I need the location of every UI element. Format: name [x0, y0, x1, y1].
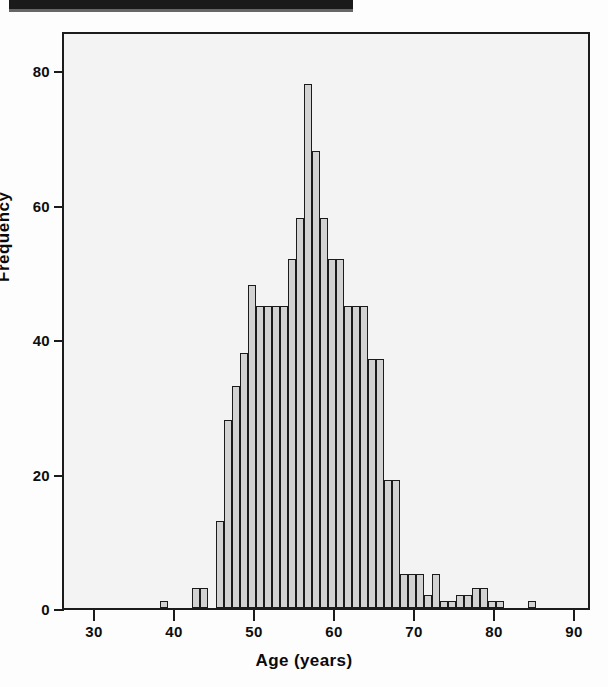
y-axis-tick-label: 60 — [4, 198, 50, 215]
x-axis-tick-label: 70 — [394, 623, 434, 640]
x-axis-tick — [253, 610, 255, 621]
histogram-bar — [488, 601, 496, 608]
histogram-bar — [528, 601, 536, 608]
x-axis-tick — [573, 610, 575, 621]
histogram-bar — [192, 588, 200, 608]
y-axis-tick-label: 40 — [4, 332, 50, 349]
histogram-bar — [400, 574, 408, 608]
histogram-bar — [376, 359, 384, 608]
histogram-bar — [480, 588, 488, 608]
bar-series — [64, 34, 588, 608]
histogram-bar — [360, 306, 368, 608]
x-axis-tick — [93, 610, 95, 621]
histogram-bar — [280, 306, 288, 608]
histogram-bar — [448, 601, 456, 608]
histogram-bar — [296, 218, 304, 608]
histogram-bar — [352, 306, 360, 608]
histogram-bar — [232, 386, 240, 608]
histogram-bar — [336, 259, 344, 608]
x-axis-tick-label: 50 — [234, 623, 274, 640]
histogram-bar — [288, 259, 296, 608]
x-axis-title: Age (years) — [0, 651, 608, 671]
histogram-bar — [264, 306, 272, 608]
histogram-bar — [224, 420, 232, 608]
plot-inner — [64, 34, 588, 608]
x-axis-tick — [333, 610, 335, 621]
x-axis-tick-label: 80 — [474, 623, 514, 640]
histogram-bar — [240, 353, 248, 608]
histogram-bar — [248, 285, 256, 608]
y-axis-tick-label: 0 — [4, 601, 50, 618]
histogram-bar — [256, 306, 264, 608]
histogram-bar — [272, 306, 280, 608]
y-axis-tick-label: 20 — [4, 467, 50, 484]
histogram-bar — [456, 595, 464, 608]
histogram-bar — [432, 574, 440, 608]
x-axis-tick — [173, 610, 175, 621]
histogram-bar — [312, 151, 320, 608]
histogram-bar — [424, 595, 432, 608]
histogram-bar — [408, 574, 416, 608]
histogram-bar — [384, 480, 392, 608]
histogram-bar — [472, 588, 480, 608]
histogram-bar — [344, 306, 352, 608]
histogram-bar — [160, 601, 168, 608]
x-axis-tick — [493, 610, 495, 621]
histogram-bar — [464, 595, 472, 608]
histogram-bar — [368, 359, 376, 608]
y-axis-tick-label: 80 — [4, 63, 50, 80]
x-axis-tick — [413, 610, 415, 621]
histogram-bar — [216, 521, 224, 608]
histogram-bar — [496, 601, 504, 608]
histogram-bar — [440, 601, 448, 608]
histogram-bar — [392, 480, 400, 608]
histogram-chart: Frequency 020406080 30405060708090 Age (… — [0, 0, 608, 687]
x-axis-tick-label: 90 — [554, 623, 594, 640]
histogram-bar — [328, 259, 336, 608]
x-axis-tick-label: 40 — [154, 623, 194, 640]
histogram-bar — [200, 588, 208, 608]
plot-area — [62, 32, 590, 610]
histogram-bar — [304, 84, 312, 608]
histogram-bar — [416, 574, 424, 608]
histogram-bar — [320, 218, 328, 608]
x-axis-tick-label: 60 — [314, 623, 354, 640]
x-axis-tick-label: 30 — [74, 623, 114, 640]
